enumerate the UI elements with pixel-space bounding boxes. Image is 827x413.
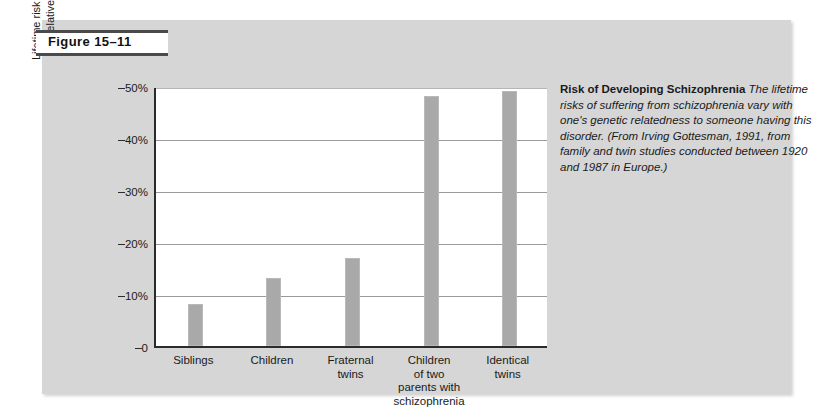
x-axis-tick-label-line: parents with	[384, 381, 474, 395]
y-axis-tick-mark	[118, 192, 125, 193]
chart-plot-area	[154, 88, 547, 348]
y-axis-tick-mark	[135, 348, 142, 349]
x-axis-tick-label: Children	[227, 354, 317, 368]
figure-caption: Risk of Developing Schizophrenia The lif…	[560, 82, 822, 175]
bar-identical-twins	[502, 91, 517, 346]
bar-siblings	[188, 304, 203, 346]
figure-number-label: Figure 15–11	[48, 34, 132, 49]
y-axis-tick-mark	[118, 88, 125, 89]
x-axis-tick-label-line: schizophrenia	[384, 395, 474, 409]
x-axis-tick-label: Identicaltwins	[463, 354, 553, 381]
y-axis-tick-mark	[118, 140, 125, 141]
x-axis-tick-label-line: Fraternal	[306, 354, 396, 368]
figure-panel: 50%40%30%20%10%0 Lifetime risk of develo…	[42, 20, 791, 394]
bar-children	[266, 278, 281, 346]
chart-bars	[156, 88, 547, 346]
caption-lead-in: Risk of Developing Schizophrenia	[560, 83, 745, 95]
x-axis-tick-labels: SiblingsChildrenFraternaltwinsChildrenof…	[154, 354, 547, 413]
x-axis-tick-label: Childrenof twoparents withschizophrenia	[384, 354, 474, 408]
caption-body: The lifetime risks of suffering from sch…	[560, 83, 812, 173]
x-axis-tick-label-line: Children	[227, 354, 317, 368]
bar-fraternal-twins	[345, 258, 360, 346]
y-axis-tick-label: 50%	[125, 82, 148, 94]
figure-rule-bottom	[36, 53, 168, 56]
figure-number-block: Figure 15–11	[36, 30, 168, 56]
y-axis-tick-label: 30%	[125, 186, 148, 198]
y-axis-tick-label: 0	[142, 342, 148, 354]
y-axis-tick-mark	[118, 296, 125, 297]
x-axis-tick-label: Fraternaltwins	[306, 354, 396, 381]
bar-children-of-two-parents-with-schizophrenia	[424, 96, 439, 346]
x-axis-tick-label-line: twins	[306, 368, 396, 382]
y-axis-tick-labels: 50%40%30%20%10%0	[100, 80, 148, 360]
x-axis-tick-label-line: Identical	[463, 354, 553, 368]
y-axis-tick-label: 10%	[125, 290, 148, 302]
y-axis-tick-label: 20%	[125, 238, 148, 250]
x-axis-tick-label: Siblings	[148, 354, 238, 368]
y-axis-tick-mark	[118, 244, 125, 245]
x-axis-tick-label-line: of two	[384, 368, 474, 382]
x-axis-tick-label-line: twins	[463, 368, 553, 382]
x-axis-tick-label-line: Siblings	[148, 354, 238, 368]
x-axis-tick-label-line: Children	[384, 354, 474, 368]
y-axis-tick-label: 40%	[125, 134, 148, 146]
